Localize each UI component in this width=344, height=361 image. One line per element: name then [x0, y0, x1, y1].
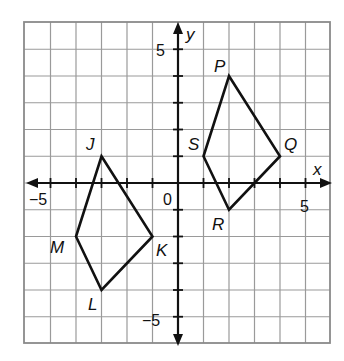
x-axis-left-arrow-icon	[26, 178, 38, 188]
y-axis-up-arrow-icon	[173, 22, 183, 34]
x-tick-label-5: 5	[300, 198, 309, 215]
y-axis-label: y	[185, 25, 196, 44]
vertex-label-m: M	[50, 238, 65, 257]
vertex-label-q: Q	[284, 135, 297, 154]
coordinate-plane: x y −5 5 5 −5 0 P Q R S J K L M	[0, 0, 344, 361]
vertex-label-p: P	[214, 57, 226, 76]
vertex-label-l: L	[88, 295, 97, 314]
vertex-label-k: K	[156, 241, 168, 260]
y-axis-down-arrow-icon	[173, 334, 183, 346]
y-tick-label-5: 5	[156, 42, 165, 59]
quadrilateral-pqrs	[204, 76, 281, 210]
vertex-label-j: J	[85, 135, 95, 154]
vertex-label-s: S	[188, 135, 200, 154]
origin-label: 0	[163, 191, 172, 208]
x-tick-label-neg5: −5	[29, 191, 47, 208]
quadrilateral-jklm	[76, 156, 153, 290]
y-tick-label-neg5: −5	[142, 312, 160, 329]
x-axis-label: x	[312, 160, 322, 179]
vertex-label-r: R	[212, 215, 224, 234]
